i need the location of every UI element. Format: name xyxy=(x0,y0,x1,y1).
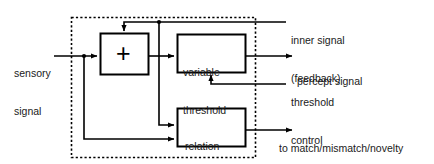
sensory-signal-label-line1: sensory xyxy=(14,67,51,80)
match-mismatch-novelty-label-line1: to match/mismatch/novelty xyxy=(279,142,403,155)
inner-signal-feedback-line xyxy=(124,22,286,31)
sensory-signal-label-line2: signal xyxy=(14,105,51,118)
threshold-control-label-line1: threshold xyxy=(291,96,334,109)
sensory-signal-label: sensory signal xyxy=(14,42,51,142)
diagram-canvas: sensory signal + variable threshold rela… xyxy=(0,0,434,164)
inner-signal-label-line1: inner signal xyxy=(291,34,345,47)
relation-detector-label: relation detector xyxy=(185,115,223,164)
inner-signal-tap-to-relation-detector-line xyxy=(159,22,174,125)
match-mismatch-novelty-label: to match/mismatch/novelty detector xyxy=(279,117,403,164)
summer-plus-symbol: + xyxy=(116,41,131,66)
relation-detector-label-line1: relation xyxy=(185,140,223,153)
variable-threshold-label-line1: variable xyxy=(183,66,226,79)
